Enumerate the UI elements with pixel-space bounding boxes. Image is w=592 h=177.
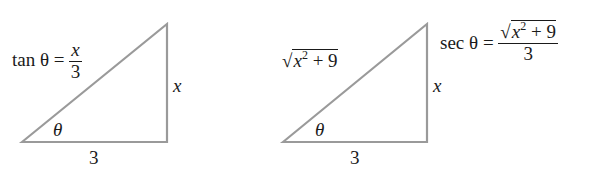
denominator: 3 <box>69 62 81 83</box>
radicand-rest: + 9 <box>526 21 556 42</box>
equation-lhs: tan θ <box>12 49 49 70</box>
angle-label-1: θ <box>53 120 62 139</box>
opposite-label-2: x <box>433 76 441 95</box>
tan-equation: tan θ = x 3 <box>12 40 82 83</box>
opposite-label-1: x <box>173 76 181 95</box>
adjacent-label-2: 3 <box>350 148 360 167</box>
radicand-var: x <box>293 50 301 71</box>
denominator: 3 <box>498 44 558 65</box>
adjacent-label-1: 3 <box>89 148 99 167</box>
fraction: x 3 <box>69 40 81 83</box>
angle-label-2: θ <box>315 120 324 139</box>
numerator: x <box>69 40 81 62</box>
right-triangle-2 <box>283 24 427 142</box>
equals-sign: = <box>54 49 65 70</box>
numerator: √x2 + 9 <box>498 20 558 44</box>
hypotenuse-label-2: √x2 + 9 <box>282 49 338 70</box>
sec-equation: sec θ = √x2 + 9 3 <box>440 20 558 65</box>
radicand-rest: + 9 <box>308 50 338 71</box>
equation-lhs: sec θ <box>440 32 478 53</box>
sqrt-expression: √x2 + 9 <box>282 49 338 70</box>
fraction: √x2 + 9 3 <box>498 20 558 65</box>
equals-sign: = <box>483 32 494 53</box>
radicand-var: x <box>512 21 520 42</box>
